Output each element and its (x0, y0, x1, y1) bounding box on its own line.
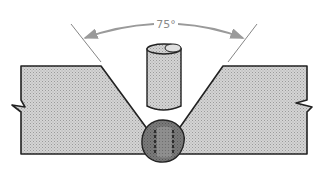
angle-arc-left (85, 24, 154, 38)
left-plate (12, 66, 148, 154)
angle-label: 75° (156, 18, 176, 31)
left-bevel-guide-line (71, 24, 101, 62)
angle-arc-right (178, 24, 243, 38)
right-bevel-guide-line (228, 24, 257, 62)
right-plate (178, 66, 312, 154)
weld-bead (142, 120, 184, 162)
weld-joint-diagram: 75° (0, 0, 319, 170)
electrode (147, 44, 181, 110)
